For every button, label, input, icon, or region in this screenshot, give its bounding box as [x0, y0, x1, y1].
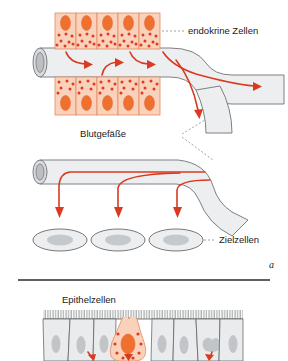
panel-a: endokrine Zellen Blutgefäße Zielzellen a — [33, 13, 284, 270]
endocrine-cell — [76, 77, 97, 115]
endocrine-cell — [55, 77, 76, 115]
endocrine-cell — [139, 77, 160, 115]
endocrine-cells-top-row — [55, 13, 160, 49]
endocrine-cell — [97, 13, 118, 49]
endocrine-cell — [97, 77, 118, 115]
leader-blood-vessels-lower — [182, 137, 213, 160]
endocrine-cell — [76, 13, 97, 49]
figure-endocrine-secretion: endokrine Zellen Blutgefäße Zielzellen a… — [0, 0, 288, 361]
label-blood-vessels: Blutgefäße — [80, 128, 126, 139]
endocrine-cell — [118, 77, 139, 115]
target-cells — [33, 229, 203, 251]
target-cell — [91, 229, 145, 251]
endocrine-cell — [139, 13, 160, 49]
endocrine-cells-bottom-row — [55, 77, 160, 115]
endocrine-cell — [118, 13, 139, 49]
leader-blood-vessels-upper — [182, 120, 205, 134]
figure-canvas: endokrine Zellen Blutgefäße Zielzellen a… — [0, 0, 288, 361]
panel-marker-a: a — [269, 259, 274, 270]
microvilli-border — [43, 310, 243, 319]
panel-b: Epithelzellen — [43, 294, 243, 361]
target-cell — [33, 229, 87, 251]
label-target-cells: Zielzellen — [219, 234, 259, 245]
target-cell — [149, 229, 203, 251]
label-endocrine-cells: endokrine Zellen — [188, 25, 258, 36]
endocrine-cell — [55, 13, 76, 49]
label-epithelial-cells: Epithelzellen — [62, 294, 116, 305]
